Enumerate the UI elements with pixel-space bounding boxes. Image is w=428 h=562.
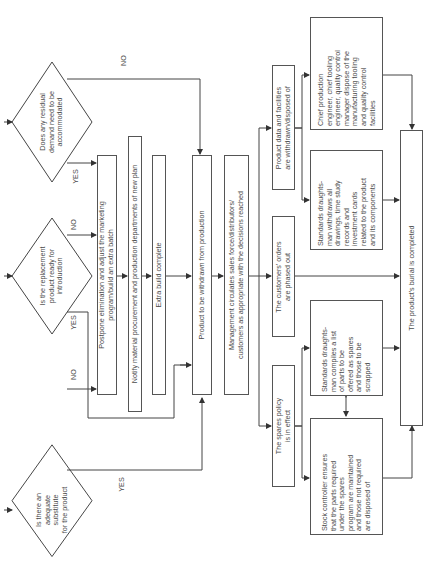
step-orders-text: The customers' orders are phased out xyxy=(275,218,292,336)
yes-label-replacement: YES xyxy=(69,315,78,329)
step-management: Management circulates sales force/distri… xyxy=(224,155,249,395)
step-chief-engineer: Chief production engineer, chief tooling… xyxy=(310,17,383,130)
step-chief-engineer-text: Chief production engineer, chief tooling… xyxy=(316,22,376,126)
step-draughtsman-compiles: Standards draughts- man compiles a list … xyxy=(310,300,383,396)
step-postpone: Postpone elimination and adjust the mark… xyxy=(97,155,117,395)
decision-replacement: Is the replacement product ready for int… xyxy=(22,246,82,306)
no-label-substitute: NO xyxy=(69,369,78,380)
step-stock-controller: Stock controller ensures that the parts … xyxy=(310,418,383,535)
no-label-residual: NO xyxy=(119,55,128,66)
step-burial-text: The product's burial is completed xyxy=(407,133,416,423)
step-postpone-text: Postpone elimination and adjust the mark… xyxy=(98,157,115,393)
decision-substitute: Is there an adequate substitute for the … xyxy=(22,480,82,540)
step-notify: Notify material procurement and producti… xyxy=(128,136,142,412)
step-notify-text: Notify material procurement and producti… xyxy=(131,138,140,410)
step-product-data-text: Product data and facilities are withdraw… xyxy=(275,67,292,189)
step-withdrawn-text: Product to be withdrawn from production xyxy=(198,157,207,393)
step-extra-build: Extra build complete xyxy=(152,155,166,395)
step-draughtsman-withdraws: Standards draughts- man withdraws all dr… xyxy=(310,150,383,250)
no-label-replacement: NO xyxy=(69,219,78,230)
yes-label-substitute: YES xyxy=(117,477,126,491)
step-draughtsman-withdraws-text: Standards draughts- man withdraws all dr… xyxy=(316,154,376,246)
step-management-text: Management circulates sales force/distri… xyxy=(228,157,245,393)
decision-replacement-text: Is the replacement product ready for int… xyxy=(39,243,65,309)
step-extra-build-text: Extra build complete xyxy=(155,157,164,393)
step-withdrawn: Product to be withdrawn from production xyxy=(192,155,212,395)
yes-label-residual: YES xyxy=(71,169,80,183)
step-spares-text: The spares policy is in effect xyxy=(275,367,292,485)
decision-residual-text: Does any residual demand need to be acco… xyxy=(39,89,65,155)
step-spares: The spares policy is in effect xyxy=(272,365,295,487)
step-draughtsman-compiles-text: Standards draughts- man compiles a list … xyxy=(321,304,373,392)
decision-substitute-text: Is there an adequate substitute for the … xyxy=(35,480,69,540)
step-orders: The customers' orders are phased out xyxy=(272,216,295,337)
step-product-data: Product data and facilities are withdraw… xyxy=(272,65,295,190)
decision-residual: Does any residual demand need to be acco… xyxy=(22,92,82,152)
step-stock-controller-text: Stock controller ensures that the parts … xyxy=(321,423,373,531)
flowchart-canvas: Is there an adequate substitute for the … xyxy=(0,0,428,562)
step-burial: The product's burial is completed xyxy=(400,130,423,426)
